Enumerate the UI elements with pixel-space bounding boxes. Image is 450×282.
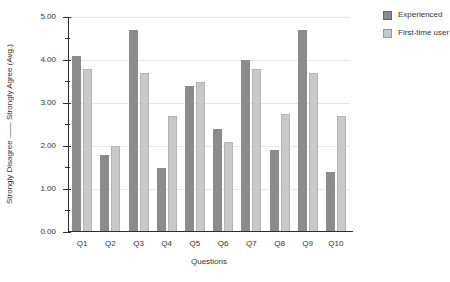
x-axis-line [68,231,353,232]
legend-item-experienced: Experienced [383,10,449,20]
y-minor-tick [65,210,70,211]
x-tick-label-q1: Q1 [68,239,96,248]
y-major-tick [63,146,71,147]
y-tick-label: 3.00 [0,98,56,108]
bar-q8-first-time-user [281,114,290,232]
x-tick-label-q10: Q10 [322,239,350,248]
bar-q1-first-time-user [83,69,92,232]
y-axis-title: Strongly Disagree —— Strongly Agree (Avg… [3,17,15,232]
x-tick-label-q3: Q3 [125,239,153,248]
legend-label-experienced: Experienced [398,10,442,20]
y-major-tick [63,232,71,233]
bar-q6-experienced [213,129,222,232]
legend-label-first-time-user: First-time user [398,28,449,38]
bar-group-q3 [129,17,149,232]
y-tick-label: 0.00 [0,227,56,237]
bar-group-q6 [213,17,233,232]
x-tick-label-q5: Q5 [181,239,209,248]
bar-group-q10 [326,17,346,232]
legend-swatch-first-time-user [383,29,392,38]
bar-group-q9 [298,17,318,232]
x-axis-title: Questions [68,257,350,266]
bar-q4-experienced [157,168,166,233]
y-tick-label: 2.00 [0,141,56,151]
bar-q3-experienced [129,30,138,232]
x-tick-label-q6: Q6 [209,239,237,248]
bar-q9-experienced [298,30,307,232]
bar-q5-first-time-user [196,82,205,233]
x-tick-label-q4: Q4 [153,239,181,248]
bar-group-q2 [100,17,120,232]
bar-q7-first-time-user [252,69,261,232]
x-tick-label-q7: Q7 [237,239,265,248]
bar-q2-experienced [100,155,109,232]
bar-q6-first-time-user [224,142,233,232]
y-tick-label: 4.00 [0,55,56,65]
y-major-tick [63,103,71,104]
x-tick-label-q2: Q2 [96,239,124,248]
bar-q4-first-time-user [168,116,177,232]
x-tick-label-q8: Q8 [266,239,294,248]
plot-area [68,17,350,232]
legend-swatch-experienced [383,11,392,20]
bar-group-q5 [185,17,205,232]
bar-q5-experienced [185,86,194,232]
y-major-tick [63,189,71,190]
legend-item-first-time-user: First-time user [383,28,449,38]
bar-q7-experienced [241,60,250,232]
y-tick-label: 1.00 [0,184,56,194]
y-major-tick [63,60,71,61]
bar-group-q8 [270,17,290,232]
y-minor-tick [65,38,70,39]
y-minor-tick [65,124,70,125]
bar-q9-first-time-user [309,73,318,232]
bar-group-q4 [157,17,177,232]
bar-q10-experienced [326,172,335,232]
x-tick-label-q9: Q9 [294,239,322,248]
bar-q3-first-time-user [140,73,149,232]
bar-q10-first-time-user [337,116,346,232]
y-minor-tick [65,167,70,168]
bar-chart-figure: Strongly Disagree —— Strongly Agree (Avg… [0,0,450,282]
bar-q1-experienced [72,56,81,232]
y-major-tick [63,17,71,18]
legend: Experienced First-time user [383,10,449,46]
bar-q8-experienced [270,150,279,232]
bar-q2-first-time-user [111,146,120,232]
y-minor-tick [65,81,70,82]
bar-group-q1 [72,17,92,232]
bar-group-q7 [241,17,261,232]
y-tick-label: 5.00 [0,12,56,22]
